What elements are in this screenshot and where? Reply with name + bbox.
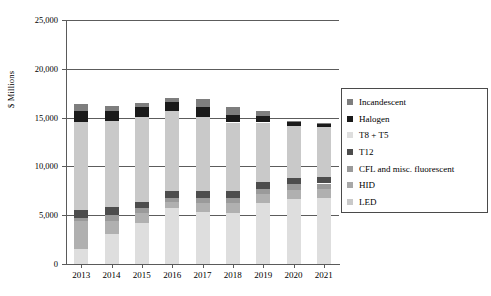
- legend-swatch-icon: [347, 116, 353, 122]
- bar-segment: [165, 191, 179, 198]
- bar-segment: [226, 191, 240, 198]
- legend-swatch-icon: [347, 149, 353, 155]
- bar-stack: [287, 20, 301, 264]
- bar-segment: [165, 198, 179, 202]
- bar-segment: [196, 203, 210, 212]
- legend-label: Halogen: [359, 114, 390, 124]
- bar-segment: [317, 184, 331, 190]
- bar-segment: [256, 123, 270, 183]
- bar-segment: [196, 107, 210, 116]
- bar-stack: [226, 20, 240, 264]
- bar-segment: [165, 202, 179, 208]
- bar-segment: [256, 194, 270, 203]
- x-axis-tick-mark: [172, 264, 173, 268]
- bar-segment: [74, 218, 88, 221]
- bar-stack: [165, 20, 179, 264]
- bar-segment: [317, 198, 331, 264]
- bar-segment: [226, 198, 240, 203]
- legend-item[interactable]: T8 + T5: [347, 127, 487, 144]
- bar-segment: [226, 203, 240, 213]
- bar-segment: [105, 207, 119, 215]
- bar-segment: [287, 122, 301, 126]
- bar-stack: [74, 20, 88, 264]
- legend-swatch-icon: [347, 99, 353, 105]
- y-axis-tick-mark: [62, 264, 66, 265]
- bar-segment: [287, 126, 301, 178]
- bar-segment: [105, 106, 119, 110]
- bar-segment: [105, 121, 119, 207]
- legend-swatch-icon: [347, 199, 353, 205]
- plot-area: 05,00010,00015,00020,00025,000 201320142…: [66, 20, 339, 264]
- bar-segment: [165, 208, 179, 264]
- legend-item[interactable]: Halogen: [347, 111, 487, 128]
- bar-segment: [165, 98, 179, 101]
- x-axis-tick-label: 2019: [246, 270, 280, 280]
- bar-segment: [256, 182, 270, 189]
- bar-segment: [105, 215, 119, 220]
- y-axis-tick-mark: [62, 69, 66, 70]
- bar-segment: [105, 221, 119, 234]
- bar-segment: [135, 103, 149, 107]
- bar-stack: [317, 20, 331, 264]
- bar-segment: [196, 212, 210, 264]
- x-axis-tick-mark: [233, 264, 234, 268]
- bar-segment: [196, 198, 210, 203]
- x-axis-tick-label: 2015: [125, 270, 159, 280]
- bar-segment: [256, 189, 270, 194]
- x-axis-tick-mark: [324, 264, 325, 268]
- legend-label: LED: [359, 197, 377, 207]
- legend-label: Incandescent: [359, 97, 406, 107]
- bar-segment: [256, 203, 270, 264]
- bar-segment: [226, 213, 240, 264]
- bar-segment: [135, 202, 149, 209]
- bar-segment: [317, 127, 331, 177]
- bar-segment: [226, 123, 240, 191]
- bar-stack: [135, 20, 149, 264]
- bar-segment: [287, 178, 301, 185]
- y-axis-tick-mark: [62, 166, 66, 167]
- bar-stack: [196, 20, 210, 264]
- bar-segment: [226, 115, 240, 122]
- legend-label: HID: [359, 180, 375, 190]
- bar-segment: [287, 190, 301, 198]
- legend-item[interactable]: CFL and misc. fluorescent: [347, 160, 487, 177]
- legend-swatch-icon: [347, 132, 353, 138]
- bar-segment: [135, 117, 149, 202]
- bar-segment: [317, 189, 331, 198]
- y-axis-tick-label: 20,000: [12, 65, 58, 73]
- bar-stack: [256, 20, 270, 264]
- x-axis-tick-label: 2013: [64, 270, 98, 280]
- bar-segment: [226, 107, 240, 115]
- bar-stack: [105, 20, 119, 264]
- bar-segment: [135, 208, 149, 213]
- legend-label: T12: [359, 147, 374, 157]
- y-axis-tick-mark: [62, 20, 66, 21]
- x-axis-tick-mark: [112, 264, 113, 268]
- bar-segment: [135, 223, 149, 264]
- legend-item[interactable]: LED: [347, 194, 487, 211]
- legend-swatch-icon: [347, 182, 353, 188]
- x-axis-tick-label: 2014: [95, 270, 129, 280]
- bar-segment: [287, 199, 301, 264]
- bar-segment: [74, 104, 88, 111]
- legend-item[interactable]: Incandescent: [347, 94, 487, 111]
- x-axis-tick-mark: [203, 264, 204, 268]
- x-axis-tick-mark: [263, 264, 264, 268]
- x-axis-tick-mark: [81, 264, 82, 268]
- bar-segment: [74, 122, 88, 211]
- legend-item[interactable]: HID: [347, 177, 487, 194]
- x-axis-tick-mark: [294, 264, 295, 268]
- y-axis-tick-label: 10,000: [12, 162, 58, 170]
- x-axis-tick-label: 2021: [307, 270, 341, 280]
- legend-item[interactable]: T12: [347, 144, 487, 161]
- y-axis-tick-mark: [62, 215, 66, 216]
- bar-segment: [165, 102, 179, 112]
- x-axis-tick-mark: [142, 264, 143, 268]
- bar-segment: [105, 111, 119, 121]
- bar-segment: [74, 249, 88, 264]
- y-axis-tick-label: 25,000: [12, 16, 58, 24]
- bar-segment: [196, 99, 210, 108]
- legend-label: T8 + T5: [359, 130, 388, 140]
- y-axis-tick-label: 5,000: [12, 211, 58, 219]
- chart-container: $ Millions 05,00010,00015,00020,00025,00…: [0, 0, 491, 296]
